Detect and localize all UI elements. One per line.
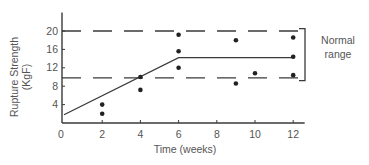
normal-range-bracket [299,29,305,81]
normal-range-text: Normal [321,34,355,46]
x-tick-label: 4 [137,128,143,140]
x-tick-label: 0 [58,128,64,140]
y-tick-label: 20 [46,25,58,37]
data-point [291,54,296,59]
data-point [138,75,143,80]
y-axis-label: Rupture Strength [8,37,20,117]
y-tick-label: 12 [46,61,58,73]
data-point [100,112,105,117]
normal-range-label: Normalrange [321,34,355,60]
bracket [299,29,305,81]
data-point [176,32,181,37]
data-point [234,81,239,86]
x-axis-label: Time (weeks) [154,143,217,155]
x-tick-label: 10 [249,128,261,140]
x-tick-label: 6 [176,128,182,140]
rupture-strength-chart: 02468101248121620 Time (weeks) Rupture S… [0,0,369,165]
x-tick-label: 12 [287,128,299,140]
y-tick-label: 8 [52,80,58,92]
data-point [176,66,181,71]
y-tick-label: 4 [52,98,58,110]
data-point [138,88,143,93]
x-tick-label: 8 [214,128,220,140]
y-axis-unit: (KgF) [20,64,32,90]
data-point [234,38,239,43]
axes: 02468101248121620 [46,13,304,140]
data-point [176,49,181,54]
data-point [291,35,296,40]
data-points [100,32,296,116]
data-point [291,73,296,78]
y-axis-label-group: Rupture Strength (KgF) [8,37,32,117]
data-point [253,71,258,76]
x-tick-label: 2 [99,128,105,140]
data-point [100,102,105,107]
y-tick-label: 16 [46,43,58,55]
normal-range-reference-lines [62,31,301,78]
normal-range-text: range [325,48,352,60]
